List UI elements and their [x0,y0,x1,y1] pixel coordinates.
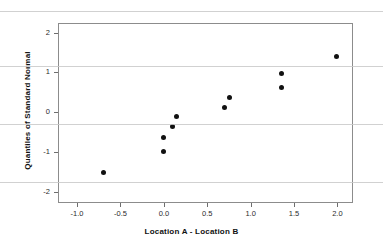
x-tick-mark [294,203,295,207]
scan-artifact-line [0,66,383,67]
x-tick-label: 2.0 [324,210,350,218]
x-tick-label: -0.5 [107,210,133,218]
x-tick-mark [337,203,338,207]
scan-artifact-line [0,182,383,183]
x-tick-label: 1.0 [238,210,264,218]
data-point [161,135,166,140]
x-tick-mark [164,203,165,207]
x-axis-title: Location A - Location B [0,227,383,236]
scan-artifact-line [0,124,383,125]
data-point [174,114,179,119]
y-tick-label: 0 [28,108,50,116]
data-point [170,124,175,129]
scan-artifact-line [0,11,383,12]
x-tick-mark [77,203,78,207]
data-point [101,170,106,175]
y-tick-label: 1 [28,68,50,76]
x-tick-mark [120,203,121,207]
x-tick-label: -1.0 [64,210,90,218]
data-point [279,71,284,76]
y-tick-label: 2 [28,29,50,37]
plot-area [58,23,353,203]
data-point [334,54,339,59]
x-tick-label: 1.5 [281,210,307,218]
data-point [227,95,232,100]
y-tick-label: -2 [28,188,50,196]
data-point [222,105,227,110]
x-tick-mark [251,203,252,207]
x-tick-label: 0.0 [151,210,177,218]
data-point [161,149,166,154]
qq-plot-figure: Quantiles of Standard Normal Location A … [0,0,383,244]
y-tick-label: -1 [28,148,50,156]
data-point [279,85,284,90]
x-tick-label: 0.5 [194,210,220,218]
x-tick-mark [207,203,208,207]
